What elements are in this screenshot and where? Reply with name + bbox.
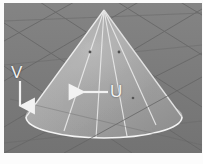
- top-margin-band: [0, 0, 203, 3]
- screenshot-viewport: V U: [0, 0, 203, 164]
- cone-render-svg: [4, 3, 202, 153]
- 3d-scene-canvas[interactable]: [4, 3, 202, 153]
- left-margin-band: [0, 0, 4, 164]
- bottom-margin-band: [0, 153, 203, 164]
- right-margin-band: [202, 0, 203, 164]
- mesh-vertex-dot: [89, 51, 92, 54]
- mesh-vertex-dot: [132, 97, 135, 100]
- mesh-vertex-dot: [118, 51, 121, 54]
